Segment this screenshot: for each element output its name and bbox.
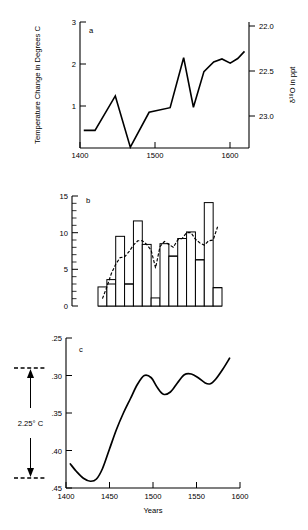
- panel-a-right-tick-label-230: 23.0: [259, 112, 274, 121]
- bar: [169, 256, 178, 306]
- panel-a: 3 2 1 Temperature Change in Degrees C 14…: [0, 0, 308, 172]
- bar: [160, 244, 169, 306]
- panel-a-right-tick-label-220: 22.0: [259, 22, 274, 31]
- panel-a-right-tick-label-225: 22.5: [259, 67, 274, 76]
- bar: [187, 232, 196, 306]
- panel-a-ylabel-left: Temperature Change in Degrees C: [33, 26, 42, 144]
- panel-b-letter: b: [86, 196, 90, 205]
- bar: [125, 284, 134, 306]
- figure-container: 3 2 1 Temperature Change in Degrees C 14…: [0, 0, 308, 530]
- panel-c-x-label-1600: 1600: [232, 492, 249, 501]
- panel-c: .25 .30 .35 .40 .45 c 1400 1450 1500 155…: [0, 330, 308, 530]
- panel-c-tick-label-35: .35: [51, 409, 62, 418]
- bar: [133, 221, 142, 306]
- bar: [213, 288, 222, 306]
- bar: [178, 239, 187, 306]
- panel-b-tick-label-0: 0: [64, 302, 68, 311]
- bar: [204, 203, 213, 306]
- panel-a-letter: a: [89, 26, 94, 35]
- panel-b-tick-label-10: 10: [60, 229, 68, 238]
- panel-b: 15 10 5 0 b: [0, 186, 308, 326]
- bar: [151, 298, 160, 306]
- panel-b-tick-label-15: 15: [60, 192, 68, 201]
- panel-c-x-label-1450: 1450: [101, 492, 118, 501]
- panel-c-x-label-1500: 1500: [145, 492, 162, 501]
- panel-a-left-tick-label-3: 3: [72, 18, 76, 27]
- panel-a-x-label-1500: 1500: [147, 151, 164, 160]
- panel-c-xlabel: Years: [143, 506, 162, 515]
- panel-c-tick-label-30: .30: [51, 372, 62, 381]
- panel-c-letter: c: [79, 345, 83, 354]
- bar: [195, 260, 204, 306]
- panel-a-x-label-1400: 1400: [72, 151, 89, 160]
- panel-c-tick-label-40: .40: [51, 447, 62, 456]
- bar: [116, 236, 125, 306]
- panel-c-x-label-1400: 1400: [58, 492, 75, 501]
- panel-a-ylabel-right: δ¹⁸O in ppt: [288, 66, 297, 103]
- panel-c-data-curve: [70, 358, 229, 481]
- panel-a-left-tick-label-2: 2: [72, 60, 76, 69]
- panel-c-arrow-up-head: [27, 369, 34, 378]
- panel-c-range-annotation: 2.25° C: [18, 419, 44, 428]
- panel-a-data-line: [84, 51, 245, 147]
- panel-a-x-label-1600: 1600: [222, 151, 239, 160]
- panel-b-minor-ticks: [72, 203, 77, 298]
- panel-c-arrow-down-head: [27, 468, 34, 477]
- panel-a-left-tick-label-1: 1: [72, 102, 76, 111]
- panel-b-bars: [98, 203, 222, 306]
- bar: [142, 244, 151, 306]
- panel-c-x-label-1550: 1550: [188, 492, 205, 501]
- panel-b-tick-label-5: 5: [64, 265, 68, 274]
- bar: [98, 287, 107, 306]
- panel-c-tick-label-25: .25: [51, 334, 62, 343]
